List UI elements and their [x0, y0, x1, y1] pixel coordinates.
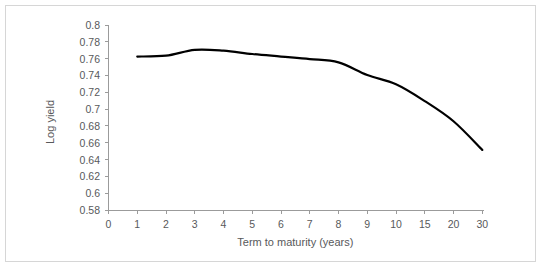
axis-lines: [109, 25, 485, 210]
x-tick-label: 4: [221, 218, 227, 230]
x-tick-label: 6: [278, 218, 284, 230]
x-tick-label: 20: [448, 218, 460, 230]
y-tick-label: 0.74: [48, 69, 100, 81]
x-axis-title: Term to maturity (years): [237, 236, 353, 248]
x-tick-label: 9: [364, 218, 370, 230]
y-tick-label: 0.62: [48, 170, 100, 182]
x-tick-label: 3: [192, 218, 198, 230]
x-tick-label: 0: [106, 218, 112, 230]
y-tick-label: 0.6: [48, 187, 100, 199]
axis-ticks: [105, 25, 483, 214]
y-tick-label: 0.76: [48, 53, 100, 65]
y-tick-label: 0.72: [48, 86, 100, 98]
x-tick-label: 10: [390, 218, 402, 230]
chart-figure: 0.80.780.760.740.720.70.680.660.640.620.…: [0, 0, 541, 267]
y-tick-label: 0.8: [48, 19, 100, 31]
y-tick-label: 0.58: [48, 204, 100, 216]
x-tick-label: 15: [419, 218, 431, 230]
y-tick-label: 0.64: [48, 154, 100, 166]
y-tick-label: 0.78: [48, 36, 100, 48]
x-tick-label: 1: [134, 218, 140, 230]
x-tick-label: 8: [336, 218, 342, 230]
x-tick-label: 5: [249, 218, 255, 230]
x-tick-label: 7: [307, 218, 313, 230]
y-axis-title: Log yield: [44, 99, 56, 143]
x-tick-label: 30: [476, 218, 488, 230]
yield-curve-line: [137, 49, 482, 149]
plot-area: 0.80.780.760.740.720.70.680.660.640.620.…: [0, 0, 541, 267]
x-tick-label: 2: [163, 218, 169, 230]
